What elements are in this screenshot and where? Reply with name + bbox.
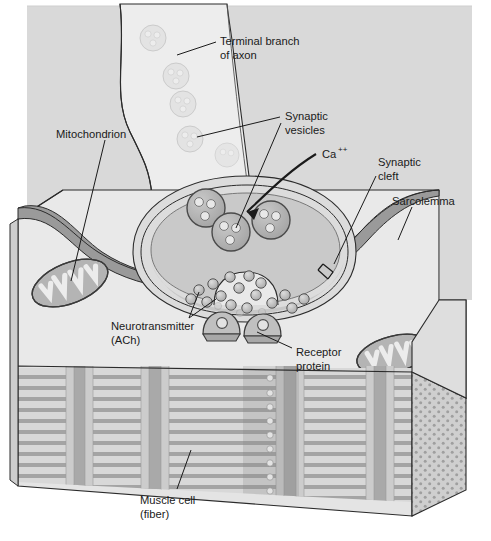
neurotransmitter-dot — [287, 303, 297, 313]
axon-vesicle — [140, 25, 166, 51]
synaptic-vesicle — [212, 213, 250, 251]
label-line-1: Synaptic — [285, 110, 328, 122]
label-line-1: Synaptic — [378, 156, 421, 168]
axon-vesicle — [163, 63, 189, 89]
label-sarcolemma: Sarcolemma — [392, 195, 456, 207]
label-superscript: ++ — [338, 145, 348, 154]
synaptic-vesicle — [252, 201, 290, 239]
neurotransmitter-dot — [267, 298, 277, 308]
neurotransmitter-dot — [234, 283, 244, 293]
neurotransmitter-dot — [251, 290, 261, 300]
label-line-1: Muscle cell — [140, 494, 195, 506]
label-line-1: Sarcolemma — [392, 195, 456, 207]
label-line-2: protein — [296, 360, 330, 372]
label-line-1: Ca — [322, 148, 337, 160]
label-line-2: vesicles — [285, 124, 325, 136]
label-line-2: cleft — [378, 170, 399, 182]
neurotransmitter-dot — [216, 291, 226, 301]
neurotransmitter-dot — [299, 294, 309, 304]
synaptic-bouton — [133, 176, 356, 322]
label-line-1: Neurotransmitter — [111, 320, 195, 332]
label-line-1: Mitochondrion — [56, 128, 126, 140]
neurotransmitter-dot — [280, 290, 290, 300]
neurotransmitter-dot — [256, 278, 266, 288]
axon-vesicle — [215, 143, 239, 167]
axon-vesicle — [170, 91, 196, 117]
neuromuscular-junction-figure: Terminal branch of axon Synaptic vesicle… — [0, 0, 491, 541]
label-line-2: (fiber) — [140, 508, 169, 520]
label-mitochondrion: Mitochondrion — [56, 128, 126, 140]
neurotransmitter-dot — [226, 300, 236, 310]
axon-vesicle — [177, 126, 203, 152]
muscle-cut-face — [412, 300, 466, 516]
muscle-left-face — [10, 219, 18, 486]
label-line-2: of axon — [220, 49, 257, 61]
label-line-2: (ACh) — [111, 334, 140, 346]
neurotransmitter-dot — [225, 272, 235, 282]
muscle-striation-block — [14, 360, 416, 530]
neurotransmitter-dot — [244, 271, 254, 281]
label-muscle-cell-fiber: Muscle cell (fiber) — [140, 494, 195, 520]
neurotransmitter-dot — [194, 285, 204, 295]
diagram-canvas: Terminal branch of axon Synaptic vesicle… — [0, 0, 491, 541]
label-line-1: Receptor — [296, 346, 342, 358]
label-line-1: Terminal branch — [220, 35, 300, 47]
neurotransmitter-dot — [208, 279, 218, 289]
